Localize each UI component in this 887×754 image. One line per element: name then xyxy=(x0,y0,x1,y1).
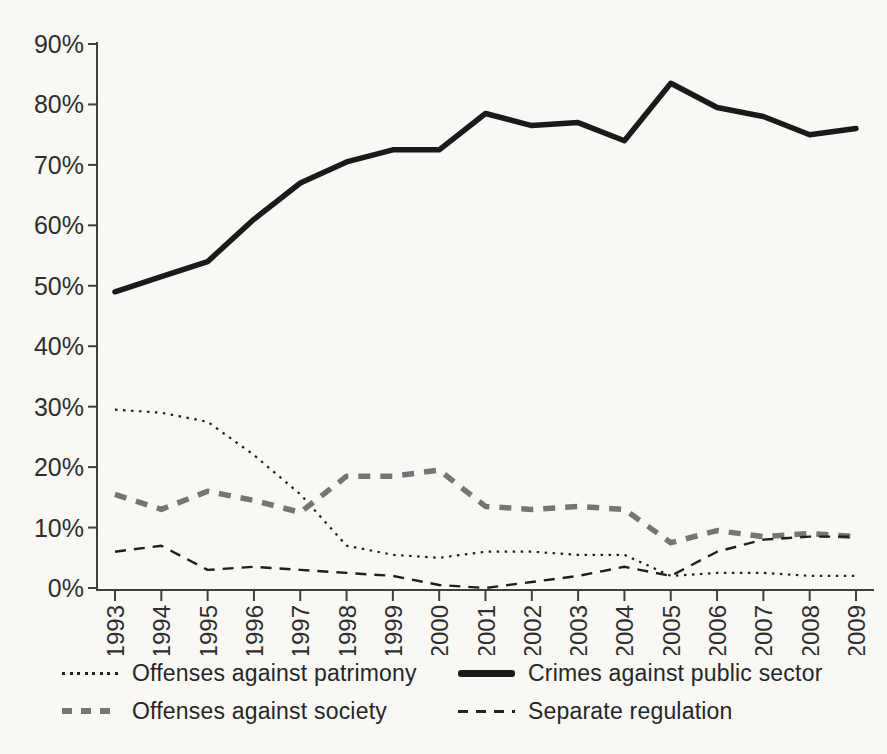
series-line-separate-regulation xyxy=(115,537,856,588)
gray-dashed-line-swatch xyxy=(62,708,119,714)
y-tick-label: 20% xyxy=(34,453,84,481)
y-tick-label: 90% xyxy=(34,30,84,58)
y-tick-label: 70% xyxy=(34,151,84,179)
solid-line-swatch xyxy=(458,670,515,677)
y-tick-label: 50% xyxy=(34,272,84,300)
legend-item-offenses-against-society: Offenses against society xyxy=(62,696,458,726)
legend-label-offenses-against-patrimony: Offenses against patrimony xyxy=(132,660,417,687)
legend-item-separate-regulation: Separate regulation xyxy=(458,696,874,726)
x-tick-label: 1994 xyxy=(148,605,175,655)
x-tick-label: 2004 xyxy=(611,605,638,655)
y-tick-label: 30% xyxy=(34,393,84,421)
x-tick-label: 1997 xyxy=(287,605,314,655)
x-tick-label: 1996 xyxy=(241,605,268,655)
x-tick-label: 2003 xyxy=(565,605,592,655)
x-tick-label: 1998 xyxy=(334,605,361,655)
figure: 0%10%20%30%40%50%60%70%80%90%19931994199… xyxy=(0,0,887,754)
series-line-offenses-against-society xyxy=(115,470,856,543)
x-tick-label: 2006 xyxy=(704,605,731,655)
y-tick-label: 80% xyxy=(34,90,84,118)
x-tick-label: 2009 xyxy=(843,605,870,655)
y-tick-label: 0% xyxy=(48,574,84,602)
y-tick-label: 10% xyxy=(34,514,84,542)
legend-label-separate-regulation: Separate regulation xyxy=(528,698,733,725)
x-tick-label: 2002 xyxy=(519,605,546,655)
x-tick-label: 2001 xyxy=(473,605,500,655)
chart-legend: Offenses against patrimony Crimes agains… xyxy=(62,658,874,726)
y-tick-label: 60% xyxy=(34,211,84,239)
legend-item-offenses-against-patrimony: Offenses against patrimony xyxy=(62,658,458,688)
x-tick-label: 1995 xyxy=(195,605,222,655)
line-chart: 0%10%20%30%40%50%60%70%80%90%19931994199… xyxy=(0,0,887,655)
x-tick-label: 1999 xyxy=(380,605,407,655)
x-tick-label: 2000 xyxy=(426,605,453,655)
legend-item-crimes-against-public-sector: Crimes against public sector xyxy=(458,658,874,688)
series-line-crimes-against-public-sector xyxy=(115,83,856,291)
x-tick-label: 2007 xyxy=(750,605,777,655)
legend-label-crimes-against-public-sector: Crimes against public sector xyxy=(528,660,823,687)
x-tick-label: 2008 xyxy=(797,605,824,655)
thin-dashed-line-swatch xyxy=(458,710,515,713)
dotted-line-swatch xyxy=(62,672,119,675)
y-tick-label: 40% xyxy=(34,332,84,360)
legend-label-offenses-against-society: Offenses against society xyxy=(132,698,387,725)
x-tick-label: 2005 xyxy=(658,605,685,655)
x-tick-label: 1993 xyxy=(102,605,129,655)
